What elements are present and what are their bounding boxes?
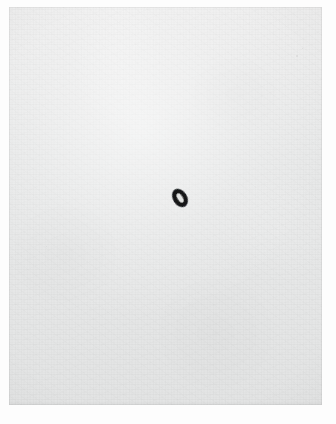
paper-lighting-vignette: [9, 7, 322, 405]
speck-mid-left: [46, 246, 47, 247]
paper-edge-shading: [9, 7, 322, 405]
paper-mottling-layer: [9, 7, 322, 405]
artwork-frame: Untitled (single ink ring on paper) blac…: [0, 0, 336, 424]
speck-upper-right: [296, 55, 298, 57]
paper-sheet: [9, 7, 322, 405]
speck-upper-right-small: [302, 48, 303, 49]
paper-grain-texture: [9, 7, 322, 405]
